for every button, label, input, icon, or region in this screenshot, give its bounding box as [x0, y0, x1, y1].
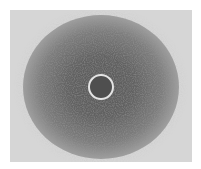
bright-ring [88, 74, 114, 100]
image-panel [10, 10, 192, 162]
